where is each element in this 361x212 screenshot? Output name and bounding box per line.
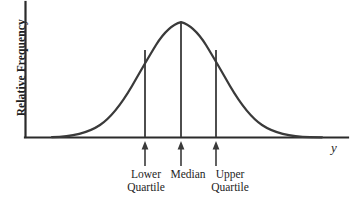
- upper-quartile-label: Upper Quartile: [194, 168, 266, 193]
- x-axis-variable-label: y: [331, 141, 337, 154]
- median-arrow: [178, 141, 185, 166]
- upper-quartile-label-line2: Quartile: [194, 181, 266, 194]
- upper-quartile-label-line1: Upper: [194, 168, 266, 181]
- lower-quartile-label-line2: Quartile: [110, 181, 182, 194]
- distribution-curve: [52, 22, 322, 137]
- upper-quartile-arrow: [213, 141, 220, 166]
- distribution-figure: Relative Frequency y Lower: [0, 0, 361, 212]
- lower-quartile-arrow: [142, 141, 149, 166]
